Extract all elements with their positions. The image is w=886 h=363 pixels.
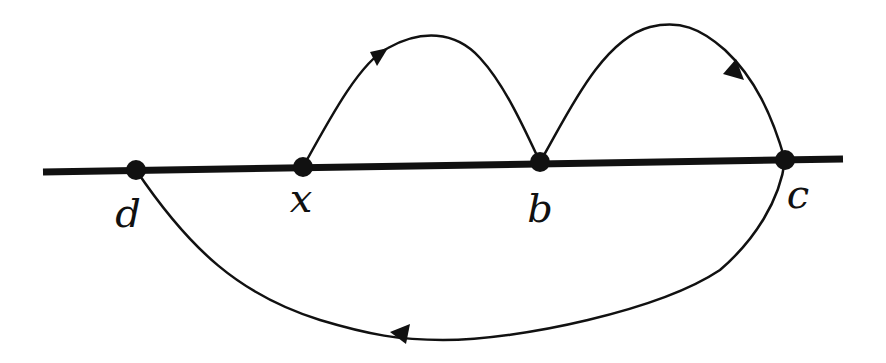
point-x	[293, 157, 313, 177]
point-b	[530, 152, 550, 172]
label-x: x	[290, 178, 313, 218]
label-b: b	[527, 188, 553, 228]
arc-x-to-b	[303, 36, 540, 167]
arc-c-to-d	[136, 160, 785, 340]
label-c: c	[787, 174, 809, 214]
arrowhead-icon	[723, 59, 744, 80]
diagram-canvas	[0, 0, 886, 363]
label-d: d	[115, 193, 141, 233]
arrowhead-icon	[390, 324, 410, 344]
point-c	[775, 150, 795, 170]
arc-b-to-c	[540, 25, 785, 162]
arrowhead-icon	[370, 48, 388, 66]
number-line	[43, 159, 843, 172]
point-d	[126, 160, 146, 180]
